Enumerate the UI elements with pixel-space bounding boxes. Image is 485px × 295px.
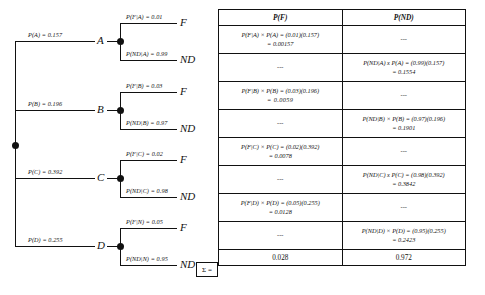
leaf-label-b-nd: ND xyxy=(180,122,195,134)
leaf-line-c-nd xyxy=(120,197,177,198)
cell-line-1: P(F|C) × P(C) = (0.02)(0.392) xyxy=(221,143,340,152)
cell-line-2: = 0.0059 xyxy=(221,96,340,105)
leaf-line-c-f xyxy=(120,160,177,161)
split-spine-d xyxy=(120,228,121,266)
table-row: --- P(ND|B) × P(B) = (0.97)(0.196) = 0.1… xyxy=(219,110,466,138)
cond-label-c-nd: P(ND|C) = 0.98 xyxy=(126,187,168,194)
cell-line-1: P(F|A) × P(A) = (0.01)(0.157) xyxy=(221,31,340,40)
cell-line-1: P(F|B) × P(B) = (0.03)(0.196) xyxy=(221,87,340,96)
cell-pf-b: P(F|B) × P(B) = (0.03)(0.196) = 0.0059 xyxy=(219,82,343,110)
cond-label-d-nd: P(ND|N) = 0.95 xyxy=(126,255,168,262)
split-spine-b xyxy=(120,92,121,130)
cell-pf-d: P(F|D) × P(D) = (0.05)(0.255) = 0.0128 xyxy=(219,194,343,222)
cell-pf-d-empty: --- xyxy=(219,222,343,250)
branch-line-a xyxy=(15,41,95,42)
split-spine-a xyxy=(120,23,121,61)
cell-pnd-a-empty: --- xyxy=(342,26,466,54)
split-spine-c xyxy=(120,160,121,198)
cell-line-1: P(F|D) × P(D) = (0.05)(0.255) xyxy=(221,199,340,208)
branch-prior-label-c: P(C) = 0.392 xyxy=(28,168,62,175)
branch-prior-label-b: P(B) = 0.196 xyxy=(28,100,62,107)
cell-line-1: P(ND|D) × P(D) = (0.95)(0.255) xyxy=(345,227,464,236)
leaf-line-d-f xyxy=(120,228,177,229)
leaf-line-a-nd xyxy=(120,60,177,61)
cell-pnd-c: P(ND|C) x P(C) = (0.98)(0.392) = 0.3842 xyxy=(342,166,466,194)
cond-label-a-f: P(F|A) = 0.01 xyxy=(126,13,163,20)
branch-line-d xyxy=(15,246,95,247)
table-row: --- P(ND|C) x P(C) = (0.98)(0.392) = 0.3… xyxy=(219,166,466,194)
diagram-canvas: P(A) = 0.157 A P(F|A) = 0.01 F P(ND|A) =… xyxy=(0,0,485,295)
branch-prior-label-d: P(D) = 0.255 xyxy=(28,236,63,243)
table-row: P(F|B) × P(B) = (0.03)(0.196) = 0.0059 -… xyxy=(219,82,466,110)
cell-line-1: P(ND|C) x P(C) = (0.98)(0.392) xyxy=(345,171,464,180)
branch-line-b xyxy=(15,110,95,111)
probability-tree: P(A) = 0.157 A P(F|A) = 0.01 F P(ND|A) =… xyxy=(0,0,218,295)
cond-label-a-nd: P(ND|A) = 0.99 xyxy=(126,50,167,57)
cell-line-1: P(ND|A) x P(A) = (0.99)(0.157) xyxy=(345,59,464,68)
branch-prior-label-a: P(A) = 0.157 xyxy=(28,31,62,38)
cell-line-2: = 0.2423 xyxy=(345,236,464,245)
leaf-line-b-nd xyxy=(120,129,177,130)
root-spine xyxy=(15,41,16,246)
cell-line-2: = 0.1901 xyxy=(345,124,464,133)
cell-line-2: = 0.0128 xyxy=(221,208,340,217)
cond-label-c-f: P(F|C) = 0.02 xyxy=(126,150,163,157)
table-row: P(F|D) × P(D) = (0.05)(0.255) = 0.0128 -… xyxy=(219,194,466,222)
leaf-label-a-f: F xyxy=(180,16,187,28)
table-row: P(F|C) × P(C) = (0.02)(0.392) = 0.0078 -… xyxy=(219,138,466,166)
sum-value-pf: 0.028 xyxy=(219,250,343,266)
leaf-line-d-nd xyxy=(120,265,177,266)
leaf-label-b-f: F xyxy=(180,85,187,97)
leaf-label-d-nd: ND xyxy=(180,258,195,270)
cond-label-b-nd: P(ND|B) = 0.97 xyxy=(126,119,167,126)
table-row: --- P(ND|D) × P(D) = (0.95)(0.255) = 0.2… xyxy=(219,222,466,250)
stage1-node-label-a: A xyxy=(97,34,104,46)
table-row: --- P(ND|A) x P(A) = (0.99)(0.157) = 0.1… xyxy=(219,54,466,82)
leaf-label-c-f: F xyxy=(180,153,187,165)
cond-label-b-f: P(F|B) = 0.03 xyxy=(126,82,163,89)
leaf-label-c-nd: ND xyxy=(180,190,195,202)
cell-pnd-c-empty: --- xyxy=(342,138,466,166)
cell-pnd-b-empty: --- xyxy=(342,82,466,110)
stage1-node-label-d: D xyxy=(97,239,105,251)
column-header-pf: P(F) xyxy=(219,10,343,26)
column-header-pnd: P(ND) xyxy=(342,10,466,26)
table-row: P(F|A) × P(A) = (0.01)(0.157) = 0.00157 … xyxy=(219,26,466,54)
cond-label-d-f: P(F|N) = 0.05 xyxy=(126,218,163,225)
leaf-line-b-f xyxy=(120,92,177,93)
sum-label-cell: Σ = xyxy=(196,262,218,277)
cell-line-2: = 0.3842 xyxy=(345,180,464,189)
cell-line-2: = 0.1554 xyxy=(345,68,464,77)
cell-pf-c: P(F|C) × P(C) = (0.02)(0.392) = 0.0078 xyxy=(219,138,343,166)
cell-pf-a-empty: --- xyxy=(219,54,343,82)
cell-line-2: = 0.00157 xyxy=(221,40,340,49)
branch-line-c xyxy=(15,178,95,179)
cell-line-2: = 0.0078 xyxy=(221,152,340,161)
leaf-label-a-nd: ND xyxy=(180,53,195,65)
joint-probability-table-wrap: P(F) P(ND) P(F|A) × P(A) = (0.01)(0.157)… xyxy=(218,9,466,266)
cell-pnd-d-empty: --- xyxy=(342,194,466,222)
cell-pf-b-empty: --- xyxy=(219,110,343,138)
leaf-label-d-f: F xyxy=(180,221,187,233)
cell-pf-c-empty: --- xyxy=(219,166,343,194)
leaf-line-a-f xyxy=(120,23,177,24)
cell-pnd-d: P(ND|D) × P(D) = (0.95)(0.255) = 0.2423 xyxy=(342,222,466,250)
cell-pnd-a: P(ND|A) x P(A) = (0.99)(0.157) = 0.1554 xyxy=(342,54,466,82)
stage1-node-label-b: B xyxy=(97,103,104,115)
cell-pnd-b: P(ND|B) × P(B) = (0.97)(0.196) = 0.1901 xyxy=(342,110,466,138)
sum-value-pnd: 0.972 xyxy=(342,250,466,266)
cell-pf-a: P(F|A) × P(A) = (0.01)(0.157) = 0.00157 xyxy=(219,26,343,54)
table-header-row: P(F) P(ND) xyxy=(219,10,466,26)
cell-line-1: P(ND|B) × P(B) = (0.97)(0.196) xyxy=(345,115,464,124)
table-sum-row: 0.028 0.972 xyxy=(219,250,466,266)
stage1-node-label-c: C xyxy=(97,171,104,183)
joint-probability-table: P(F) P(ND) P(F|A) × P(A) = (0.01)(0.157)… xyxy=(218,9,466,266)
